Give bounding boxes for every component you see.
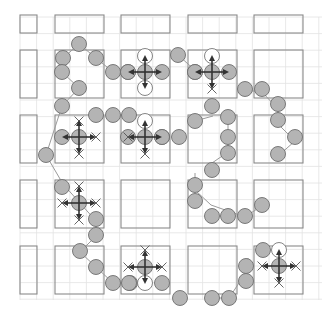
waypoint-node: [89, 228, 104, 243]
waypoint-node: [106, 65, 121, 80]
robot-agent: [55, 117, 101, 159]
four-way-arrow-icon: [62, 120, 96, 154]
waypoint-node: [122, 276, 137, 291]
four-way-arrow-icon: [128, 55, 162, 89]
waypoint-node: [271, 97, 286, 112]
waypoint-node: [173, 291, 188, 306]
obstacle-block: [254, 15, 303, 33]
waypoint-node: [72, 37, 87, 52]
waypoint-node: [56, 51, 71, 66]
obstacle-block: [55, 15, 104, 33]
grid-map-diagram: [0, 0, 333, 325]
obstacle-block: [121, 180, 170, 228]
obstacle-block: [20, 180, 37, 228]
waypoint-node: [55, 99, 70, 114]
waypoint-node: [72, 81, 87, 96]
obstacle-block: [188, 15, 237, 33]
obstacle-block: [20, 115, 37, 163]
waypoint-node: [55, 65, 70, 80]
waypoint-node: [221, 110, 236, 125]
waypoint-node: [238, 82, 253, 97]
waypoint-node: [238, 209, 253, 224]
waypoint-node: [255, 82, 270, 97]
waypoint-node: [73, 244, 88, 259]
waypoint-node: [89, 260, 104, 275]
waypoint-node: [39, 148, 54, 163]
waypoint-node: [55, 180, 70, 195]
waypoint-node: [205, 99, 220, 114]
waypoint-node: [188, 194, 203, 209]
waypoint-node: [89, 212, 104, 227]
waypoint-node: [288, 130, 303, 145]
waypoint-node: [221, 209, 236, 224]
waypoint-node: [256, 243, 271, 258]
waypoint-node: [172, 130, 187, 145]
waypoint-node: [205, 163, 220, 178]
four-way-arrow-icon: [128, 120, 162, 154]
waypoint-node: [222, 291, 237, 306]
waypoint-node: [221, 146, 236, 161]
four-way-arrow-icon: [195, 55, 229, 89]
obstacle-block: [188, 246, 237, 294]
waypoint-node: [205, 291, 220, 306]
waypoint-node: [155, 276, 170, 291]
waypoint-node: [205, 209, 220, 224]
waypoint-node: [255, 198, 270, 213]
waypoint-node: [106, 276, 121, 291]
waypoint-node: [188, 114, 203, 129]
waypoint-node: [188, 178, 203, 193]
robot-agent: [121, 49, 170, 96]
obstacle-block: [121, 15, 170, 33]
waypoint-node: [171, 48, 186, 63]
obstacle-block: [20, 246, 37, 294]
waypoint-node: [89, 51, 104, 66]
waypoint-node: [89, 108, 104, 123]
waypoint-node: [221, 130, 236, 145]
waypoint-node: [106, 108, 121, 123]
obstacle-block: [20, 15, 37, 33]
obstacle-block: [20, 50, 37, 98]
waypoint-node: [122, 108, 137, 123]
robot-agent: [188, 49, 237, 94]
waypoint-node: [271, 147, 286, 162]
waypoint-node: [239, 274, 254, 289]
waypoint-node: [271, 113, 286, 128]
waypoint-node: [239, 259, 254, 274]
